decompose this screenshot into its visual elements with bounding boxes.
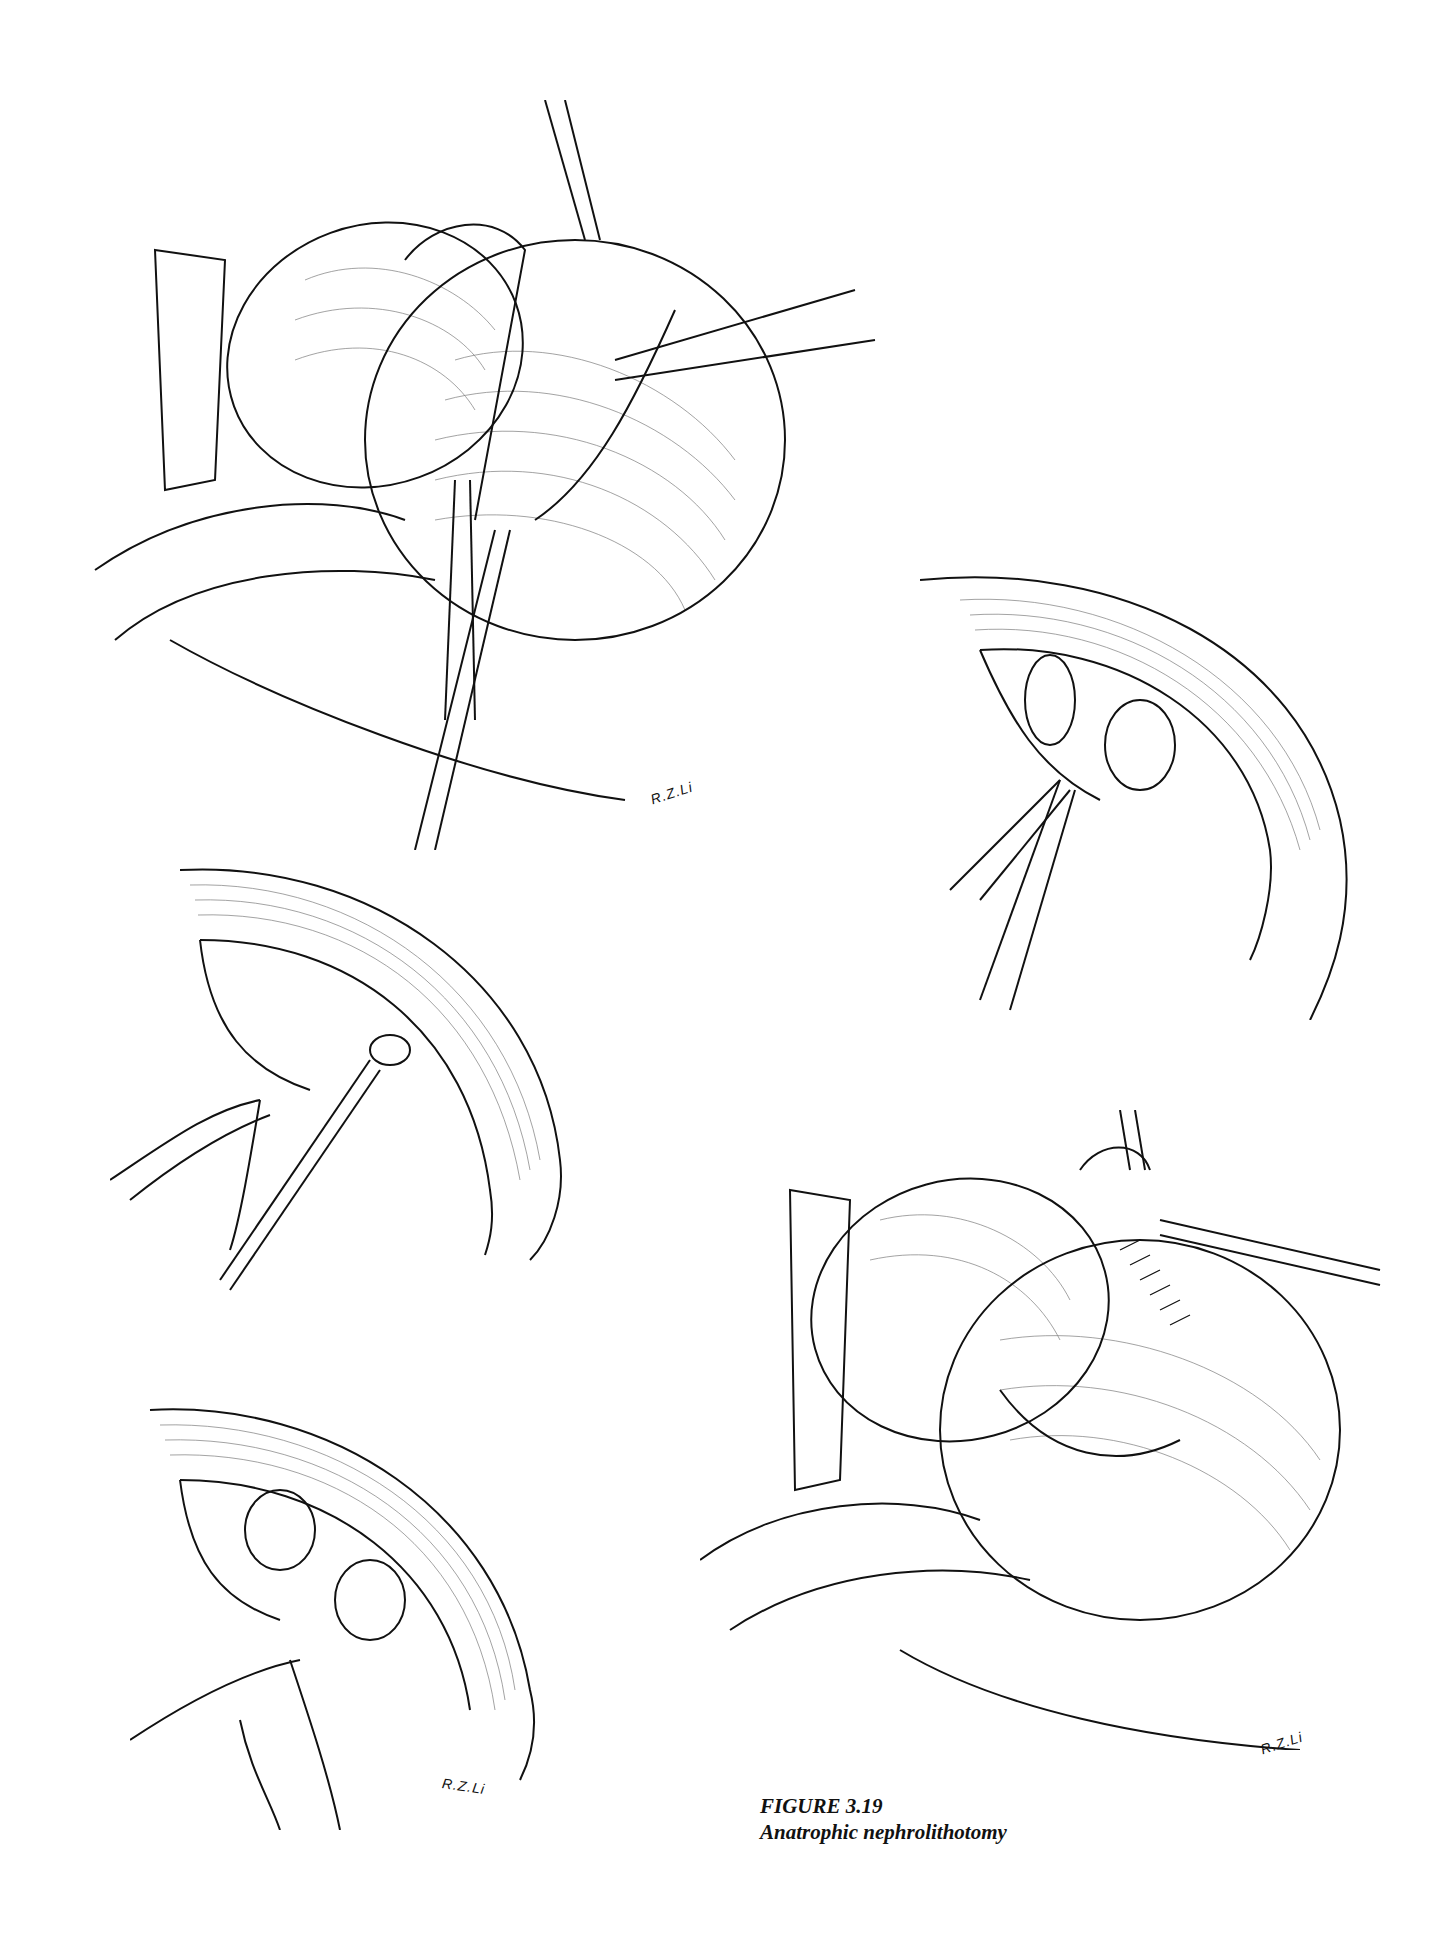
illustration-panel-bivalved-kidney	[920, 570, 1390, 1020]
figure-title: Anatrophic nephrolithotomy	[760, 1819, 1007, 1845]
closed-kidney-drawing	[700, 1110, 1390, 1750]
figure-caption: FIGURE 3.19 Anatrophic nephrolithotomy	[760, 1793, 1007, 1845]
bivalved-kidney-drawing	[920, 570, 1390, 1020]
illustration-panel-kidney-exposed	[75, 100, 905, 850]
collecting-system-drawing	[110, 860, 580, 1310]
illustration-panel-closed-kidney	[700, 1110, 1390, 1750]
illustration-panel-collecting-system	[110, 860, 580, 1310]
calyx-reconstruction-drawing	[130, 1400, 560, 1830]
figure-number: FIGURE 3.19	[760, 1793, 1007, 1819]
kidney-exposed-drawing	[75, 100, 905, 850]
illustration-panel-calyx-reconstruction	[130, 1400, 560, 1830]
